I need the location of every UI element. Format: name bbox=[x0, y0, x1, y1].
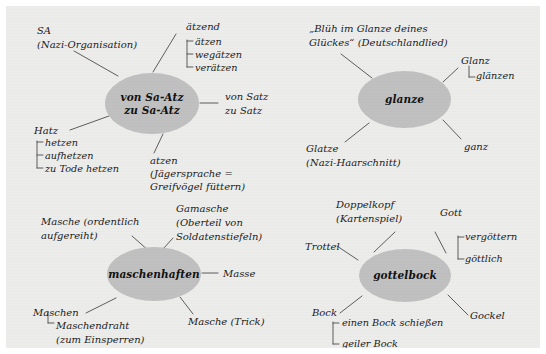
label-veraetzen: verätzen bbox=[195, 61, 238, 75]
label-hetzen: hetzen bbox=[45, 136, 78, 150]
line-glatze bbox=[345, 123, 369, 142]
label-masche-trick: Masche (Trick) bbox=[188, 315, 265, 329]
label-jaegersprache: (Jägersprache = bbox=[150, 167, 233, 181]
label-glatze-note: (Nazi-Haarschnitt) bbox=[306, 156, 401, 170]
label-bluh-line2: Glückes“ (Deutschlandlied) bbox=[309, 36, 448, 50]
label-gockel: Gockel bbox=[470, 309, 505, 323]
label-goettlich: göttlich bbox=[465, 252, 503, 266]
label-atzen: atzen bbox=[150, 154, 178, 168]
connector-lines bbox=[6, 6, 540, 348]
node-maschenhaften-label: maschenhaften bbox=[108, 268, 200, 281]
label-sa: SA bbox=[37, 24, 51, 38]
label-maschendraht: Maschendraht bbox=[56, 319, 129, 333]
node-gottelbock-label: gottelbock bbox=[373, 269, 437, 282]
label-bock: Bock bbox=[312, 306, 337, 320]
label-masche-ordentlich: Masche (ordentlich bbox=[41, 215, 139, 229]
node-gottelbock[interactable]: gottelbock bbox=[359, 249, 451, 302]
label-aufgereiht: aufgereiht) bbox=[41, 229, 98, 243]
node-maschenhaften[interactable]: maschenhaften bbox=[107, 247, 201, 301]
label-greifvoegel: Greifvögel füttern) bbox=[150, 180, 245, 194]
label-wegaetzen: wegätzen bbox=[195, 48, 242, 62]
label-masse: Masse bbox=[223, 267, 255, 281]
diagram-panel: von Sa-Atzzu Sa-Atz SA (Nazi-Organisatio… bbox=[6, 6, 540, 348]
line-bock bbox=[340, 296, 362, 313]
label-aetzend: ätzend bbox=[186, 20, 220, 34]
label-sa-note: (Nazi-Organisation) bbox=[37, 38, 137, 52]
label-glatze: Glatze bbox=[306, 142, 338, 156]
node-von-sa-atz[interactable]: von Sa-Atzzu Sa-Atz bbox=[105, 73, 199, 134]
line-hatz bbox=[70, 116, 109, 130]
label-aufhetzen: aufhetzen bbox=[45, 149, 94, 163]
line-ganz bbox=[443, 120, 461, 139]
label-aetzen-sub: ätzen bbox=[195, 35, 222, 49]
bracket-bock-ticks bbox=[333, 323, 339, 344]
label-zum-einsperren: (zum Einsperren) bbox=[56, 333, 144, 347]
label-bluh-line1: „Blüh im Glanze deines bbox=[309, 22, 428, 36]
line-glanz bbox=[443, 68, 458, 82]
label-geiler-bock: geiler Bock bbox=[342, 337, 398, 348]
line-bluh bbox=[341, 54, 372, 78]
diagram-page: von Sa-Atzzu Sa-Atz SA (Nazi-Organisatio… bbox=[0, 0, 546, 354]
label-einen-bock: einen Bock schießen bbox=[342, 316, 443, 330]
line-masche-trick bbox=[180, 297, 193, 314]
label-glaenzen: glänzen bbox=[476, 69, 514, 83]
label-von-satz: von Satz bbox=[225, 90, 268, 104]
bracket-glaenzen bbox=[469, 66, 475, 77]
label-gamasche: Gamasche bbox=[176, 202, 229, 216]
line-maschen bbox=[86, 298, 116, 313]
label-soldatenstiefeln: Soldatenstiefeln) bbox=[176, 230, 262, 244]
label-doppelkopf: Doppelkopf bbox=[336, 198, 394, 212]
label-oberteil-von: (Oberteil von bbox=[176, 216, 243, 230]
line-atzen bbox=[154, 134, 163, 153]
label-maschen: Maschen bbox=[33, 306, 79, 320]
line-gott bbox=[435, 232, 446, 253]
node-glanze-label: glanze bbox=[385, 93, 424, 106]
label-zu-tode-hetzen: zu Tode hetzen bbox=[45, 162, 119, 176]
label-trottel: Trottel bbox=[305, 240, 340, 254]
line-aetzend bbox=[153, 34, 176, 72]
label-zu-satz: zu Satz bbox=[225, 104, 262, 118]
label-ganz: ganz bbox=[464, 140, 488, 154]
label-gott: Gott bbox=[440, 206, 462, 220]
line-sa bbox=[74, 51, 118, 76]
line-gockel bbox=[448, 295, 468, 315]
label-kartenspiel: (Kartenspiel) bbox=[336, 212, 402, 226]
node-glanze[interactable]: glanze bbox=[358, 71, 451, 128]
bracket-hatz-ticks bbox=[37, 142, 43, 168]
line-trottel bbox=[337, 246, 358, 260]
node-von-sa-atz-label: von Sa-Atzzu Sa-Atz bbox=[121, 91, 184, 117]
label-glanz: Glanz bbox=[461, 54, 490, 68]
bracket-aetzend-ticks bbox=[187, 41, 193, 67]
label-vergoettern: vergöttern bbox=[465, 230, 517, 244]
bracket-gott-ticks bbox=[458, 237, 464, 259]
